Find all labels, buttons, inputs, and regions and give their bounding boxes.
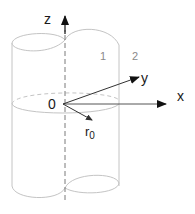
top-right-lobe — [65, 29, 119, 45]
region-label-1: 1 — [100, 50, 106, 62]
y-axis: y — [63, 70, 148, 104]
x-axis-label: x — [177, 88, 184, 104]
top-left-lobe — [12, 34, 65, 51]
bottom-right-lobe — [65, 175, 119, 193]
x-axis: x — [63, 88, 184, 104]
region-label-2: 2 — [132, 50, 138, 62]
cylinder-coordinate-diagram: z x y r0 0 1 2 — [0, 0, 195, 214]
y-axis-line — [63, 77, 139, 104]
origin-label: 0 — [48, 96, 56, 112]
radius-subscript: 0 — [89, 130, 95, 141]
radius-vector: r0 — [63, 104, 95, 141]
radius-vector-label: r0 — [85, 124, 95, 141]
bottom-left-lobe — [12, 186, 65, 198]
y-axis-label: y — [141, 70, 148, 86]
z-axis-label: z — [44, 11, 51, 27]
